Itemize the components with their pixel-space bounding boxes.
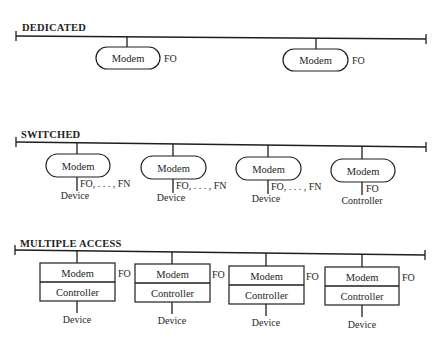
modem-label: Modem [299, 55, 332, 66]
node-switched-1: ModemFO, . . . , FNDevice [46, 143, 131, 201]
controller-label: Controller [341, 195, 383, 206]
node-dedicated-1: ModemFO [96, 37, 177, 69]
modem-label: Modem [157, 163, 190, 174]
device-label: Device [61, 190, 90, 201]
controller-label: Controller [340, 291, 384, 302]
frequency-label: FO [402, 272, 415, 283]
modem-label: Modem [250, 271, 283, 282]
node-switched-3: ModemFO, . . . , FNDevice [236, 145, 322, 204]
section-title: MULTIPLE ACCESS [20, 238, 122, 249]
controller-label: Controller [151, 288, 195, 299]
device-label: Device [252, 193, 281, 204]
modem-label: Modem [346, 272, 379, 283]
frequency-label: FO [212, 269, 225, 280]
section-dedicated: DEDICATEDModemFOModemFO [16, 22, 426, 71]
section-multiple-access: MULTIPLE ACCESSModemControllerFODeviceMo… [15, 238, 425, 330]
modem-label: Modem [112, 53, 145, 64]
frequency-label: FO [164, 53, 177, 64]
node-multiple-access-3: ModemControllerFODevice [229, 253, 319, 328]
modem-label: Modem [252, 164, 285, 175]
device-label: Device [158, 315, 187, 326]
section-title: SWITCHED [21, 129, 81, 140]
controller-label: Controller [245, 290, 289, 301]
node-switched-4: ModemFOController [331, 146, 395, 206]
modem-label: Modem [61, 268, 94, 279]
node-switched-2: ModemFO, . . . , FNDevice [141, 144, 227, 203]
node-multiple-access-2: ModemControllerFODevice [135, 252, 225, 326]
controller-label: Controller [56, 287, 100, 298]
section-switched: SWITCHEDModemFO, . . . , FNDeviceModemFO… [16, 129, 426, 206]
node-dedicated-2: ModemFO [283, 38, 365, 71]
node-multiple-access-1: ModemControllerFODevice [40, 251, 131, 325]
device-label: Device [63, 314, 92, 325]
frequency-label: FO [352, 55, 365, 66]
frequency-label: FO, . . . , FN [80, 178, 131, 189]
device-label: Device [348, 319, 377, 330]
device-label: Device [157, 192, 186, 203]
modem-label: Modem [156, 269, 189, 280]
frequency-label: FO, . . . , FN [271, 181, 322, 192]
modem-label: Modem [62, 161, 95, 172]
frequency-label: FO [306, 271, 319, 282]
frequency-label: FO, . . . , FN [176, 180, 227, 191]
frequency-label: FO [118, 268, 131, 279]
node-multiple-access-4: ModemControllerFODevice [325, 254, 415, 330]
bus-line [16, 36, 426, 39]
modem-label: Modem [347, 166, 380, 177]
section-title: DEDICATED [22, 22, 86, 33]
frequency-label: FO [366, 183, 379, 194]
network-topology-diagram: DEDICATEDModemFOModemFOSWITCHEDModemFO, … [0, 0, 443, 337]
device-label: Device [252, 317, 281, 328]
